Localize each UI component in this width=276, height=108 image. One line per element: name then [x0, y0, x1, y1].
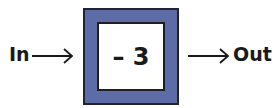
- input-label: In: [9, 45, 30, 64]
- output-label: Out: [233, 45, 272, 64]
- operation-label: – 3: [112, 45, 149, 69]
- output-arrow-icon: [187, 47, 231, 65]
- function-machine-frame: – 3: [83, 8, 179, 105]
- function-machine-inner-box: – 3: [97, 22, 165, 91]
- input-arrow-icon: [31, 47, 75, 65]
